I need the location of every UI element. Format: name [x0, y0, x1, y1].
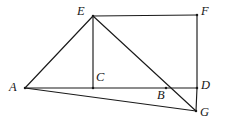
vertex-label-g: G — [200, 106, 209, 119]
segment-dg — [196, 88, 197, 111]
vertices-group — [24, 14, 199, 113]
vertex-label-a: A — [9, 81, 17, 94]
segment-eg — [93, 16, 196, 111]
vertex-label-b: B — [157, 89, 165, 102]
vertex-point-d — [196, 87, 199, 90]
vertex-point-e — [92, 15, 95, 18]
vertex-label-f: F — [201, 5, 209, 18]
vertex-label-d: D — [201, 79, 210, 92]
vertex-point-b — [165, 87, 168, 90]
edges-group — [25, 15, 197, 111]
geometry-figure: ABCDEFG — [0, 0, 225, 139]
vertex-label-c: C — [96, 71, 104, 84]
vertex-point-c — [92, 87, 95, 90]
segment-ae — [25, 16, 93, 88]
segment-ag — [25, 88, 196, 111]
vertex-point-a — [24, 87, 27, 90]
figure-canvas — [0, 0, 225, 139]
segment-ef — [93, 15, 197, 16]
vertex-point-g — [195, 110, 198, 113]
vertex-label-e: E — [77, 5, 85, 18]
vertex-point-f — [196, 14, 199, 17]
